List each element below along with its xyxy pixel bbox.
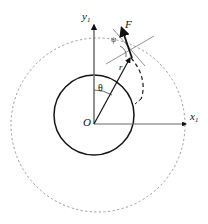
- outer-dashed-circle: [11, 38, 185, 212]
- y-axis-label: y1: [82, 11, 90, 22]
- diagram-svg: [0, 0, 208, 224]
- figure-canvas: y1 x1 F O θ r ψ: [0, 0, 208, 224]
- trajectory-dashed-arc: [131, 58, 143, 99]
- theta-angle-arc: [94, 90, 112, 95]
- origin-label: O: [83, 117, 91, 128]
- radius-label: r: [119, 63, 123, 72]
- trajectory-end-tick: [135, 99, 141, 104]
- psi-angle-label: ψ: [111, 36, 116, 44]
- theta-angle-label: θ: [98, 83, 103, 93]
- x-axis-label: x1: [190, 111, 198, 122]
- force-label: F: [125, 19, 132, 30]
